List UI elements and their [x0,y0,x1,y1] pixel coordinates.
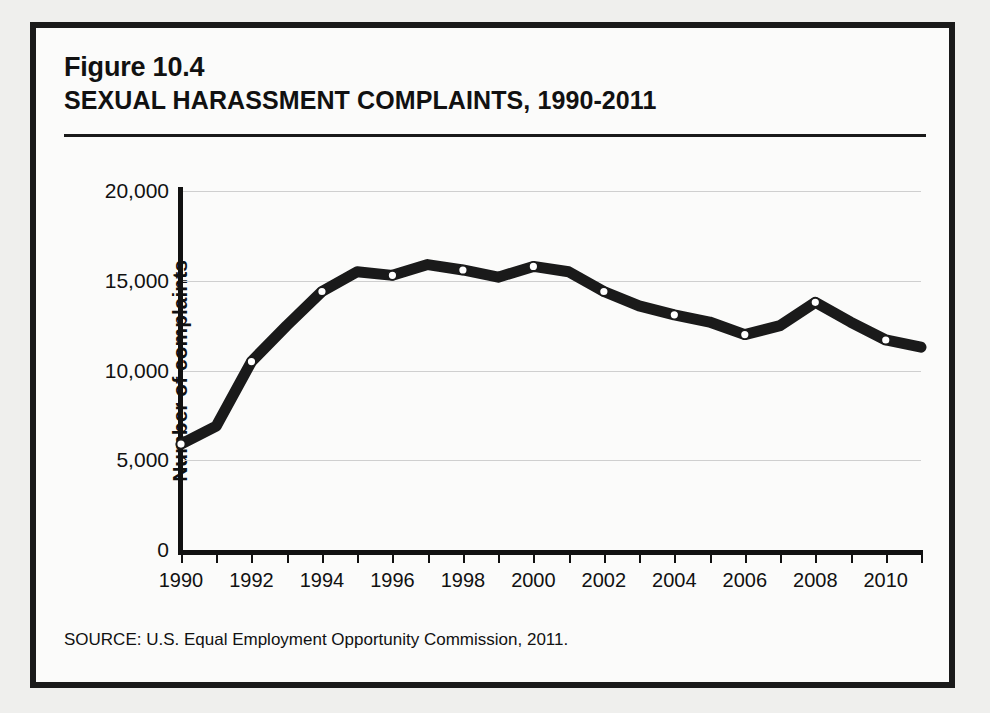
y-axis-tick-label: 0 [157,538,169,562]
y-axis-tick-label: 20,000 [105,179,169,203]
data-point-marker [670,310,679,319]
x-axis-tick-label: 2010 [864,569,909,592]
x-axis-tick-label: 1996 [370,569,415,592]
y-axis-tick-label: 15,000 [105,269,169,293]
chart-series-line [181,191,921,550]
data-point-marker [881,336,890,345]
data-point-marker [388,271,397,280]
source-note: SOURCE: U.S. Equal Employment Opportunit… [64,630,568,650]
data-point-marker [247,357,256,366]
data-point-marker [740,330,749,339]
title-divider [64,134,926,137]
figure-number: Figure 10.4 [64,52,204,83]
x-axis-tick-label: 1998 [441,569,486,592]
x-axis-tick-label: 2008 [793,569,838,592]
y-axis-tick-label: 10,000 [105,359,169,383]
y-axis-tick-label: 5,000 [116,448,169,472]
series-line [181,265,921,445]
data-point-marker [529,262,538,271]
x-axis-tick-label: 2004 [652,569,697,592]
data-point-marker [599,287,608,296]
x-axis-line [178,550,923,555]
data-point-marker [811,298,820,307]
x-axis-tick-label: 2006 [723,569,768,592]
x-axis-tick-label: 2002 [582,569,627,592]
x-axis-tick-label: 1994 [300,569,345,592]
data-point-marker [318,287,327,296]
chart-plot-area: Number of complaints 20,00015,00010,0005… [181,191,921,550]
figure-box: Figure 10.4 SEXUAL HARASSMENT COMPLAINTS… [30,22,955,688]
figure-title: SEXUAL HARASSMENT COMPLAINTS, 1990-2011 [64,86,656,115]
data-point-marker [459,266,468,275]
data-point-marker [177,440,186,449]
x-axis-tick-label: 1992 [229,569,274,592]
x-axis-tick-label: 1990 [159,569,204,592]
x-axis-tick-label: 2000 [511,569,556,592]
